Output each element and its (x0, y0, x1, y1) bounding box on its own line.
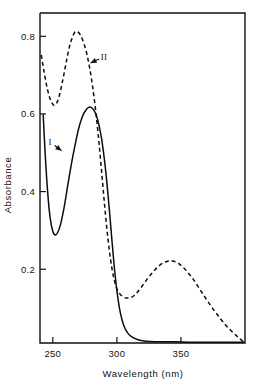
absorption-spectrum-figure: 0.20.40.60.8 250300350 III Wavelength (n… (0, 0, 260, 383)
y-tick-label: 0.6 (21, 108, 35, 119)
series-label-I: I (49, 137, 52, 147)
y-tick-label: 0.4 (21, 186, 35, 197)
y-tick-label: 0.8 (21, 31, 35, 42)
plot-frame (40, 13, 245, 343)
y-tick-label: 0.2 (21, 264, 35, 275)
series-curve-II (41, 32, 243, 343)
y-axis-title: Absorbance (2, 157, 13, 214)
x-axis-title: Wavelength (nm) (103, 368, 184, 379)
annotation-arrow-head (55, 145, 61, 151)
series-curve-I (43, 107, 244, 342)
x-tick-label: 250 (44, 348, 61, 359)
x-tick-label: 350 (173, 348, 190, 359)
x-axis-ticks: 250300350 (44, 337, 189, 359)
series-label-II: II (101, 52, 108, 62)
spectrum-plot: 0.20.40.60.8 250300350 III Wavelength (n… (0, 0, 260, 383)
y-axis-ticks: 0.20.40.60.8 (21, 31, 46, 275)
x-tick-label: 300 (108, 348, 125, 359)
